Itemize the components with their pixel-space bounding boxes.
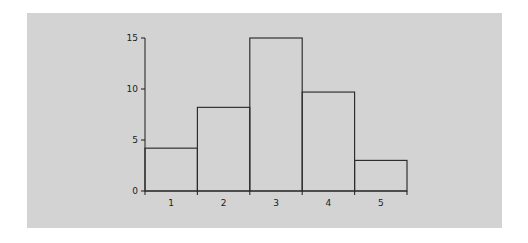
y-axis-ticks bbox=[141, 38, 145, 191]
y-axis-tick-labels: 051015 bbox=[127, 33, 139, 196]
y-tick-label: 15 bbox=[127, 33, 138, 43]
y-tick-label: 0 bbox=[132, 186, 138, 196]
x-axis: 12345 bbox=[145, 191, 407, 208]
x-tick-label: 3 bbox=[273, 198, 279, 208]
plot-panel: 051015 12345 bbox=[27, 13, 502, 228]
histogram-bar bbox=[302, 92, 354, 191]
y-axis: 051015 bbox=[127, 33, 145, 196]
y-tick-label: 5 bbox=[132, 135, 138, 145]
x-tick-label: 4 bbox=[326, 198, 332, 208]
histogram-bar bbox=[145, 148, 197, 191]
y-tick-label: 10 bbox=[127, 84, 139, 94]
histogram-bar bbox=[250, 38, 302, 191]
histogram-bars bbox=[145, 38, 407, 191]
x-tick-label: 5 bbox=[378, 198, 384, 208]
x-tick-label: 1 bbox=[168, 198, 174, 208]
histogram-bar bbox=[355, 160, 407, 191]
histogram-plot: 051015 12345 bbox=[27, 13, 502, 228]
x-tick-label: 2 bbox=[221, 198, 227, 208]
histogram-bar bbox=[197, 107, 249, 191]
histogram-figure: 051015 12345 bbox=[0, 0, 528, 243]
x-axis-ticks bbox=[145, 191, 407, 195]
x-axis-tick-labels: 12345 bbox=[168, 198, 383, 208]
